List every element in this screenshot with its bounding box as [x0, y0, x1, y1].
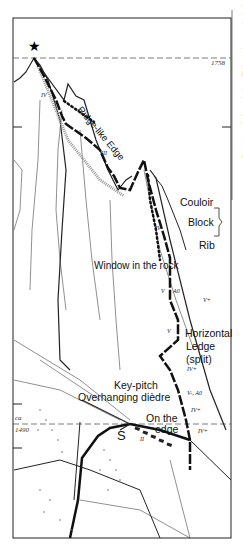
grade-label: V: [167, 328, 171, 334]
star-icon: ★: [28, 38, 41, 54]
label-start: S: [117, 430, 126, 441]
grade-label: IV+: [198, 428, 208, 434]
label-couloir: Couloir: [180, 197, 213, 208]
route-topo-drawing: [0, 0, 243, 556]
grade-label: IV: [41, 92, 47, 98]
grade-label: III: [101, 150, 107, 156]
label-horizontal-2: Ledge: [186, 341, 215, 352]
grade-label: V: [161, 288, 165, 294]
label-horizontal-1: Horizontal: [185, 328, 232, 339]
label-window: Window in the rock: [94, 260, 178, 271]
altitude-bottom-prefix: ca: [15, 414, 22, 422]
grade-label: A0: [173, 288, 180, 294]
label-key-pitch: Key-pitch: [114, 380, 158, 391]
label-on-edge-2: edge: [155, 424, 178, 435]
label-horizontal-3: (split): [186, 354, 212, 365]
grade-label: V+: [203, 297, 211, 303]
grade-label: IV+: [191, 407, 201, 413]
label-overhanging: Overhanging dièdre: [78, 392, 170, 403]
grade-label: V-, A0: [187, 390, 202, 396]
grade-label: II: [140, 436, 144, 442]
grade-label: IV+: [187, 366, 197, 372]
altitude-top: 1758: [211, 59, 225, 67]
grade-label: IV: [155, 225, 161, 231]
label-rib: Rib: [199, 240, 215, 251]
label-block: Block: [188, 217, 214, 228]
label-side-note: On the right of the Edge (out of sight): [242, 0, 243, 160]
altitude-bottom: 1490: [15, 426, 29, 434]
